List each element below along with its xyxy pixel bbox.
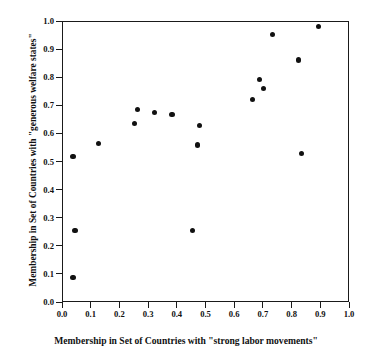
x-axis-tick-label: 0.8	[278, 309, 306, 319]
data-point	[257, 77, 262, 82]
y-axis-tick-label: 0.3	[32, 213, 54, 223]
x-axis-tick	[176, 302, 177, 308]
y-axis-tick-label: 0.2	[32, 241, 54, 251]
x-axis-tick	[262, 302, 263, 308]
y-axis-tick-label: 0.9	[32, 44, 54, 54]
x-axis-tick-label: 0.6	[220, 309, 248, 319]
y-axis-tick-label: 0.0	[32, 297, 54, 307]
x-axis-title: Membership in Set of Countries with "str…	[0, 335, 372, 346]
data-point	[152, 110, 157, 115]
data-point	[169, 112, 174, 117]
y-axis-tick	[56, 273, 62, 274]
data-point	[135, 107, 140, 112]
x-axis-tick-label: 0.7	[249, 309, 277, 319]
y-axis-tick-label: 0.5	[32, 157, 54, 167]
y-axis-tick	[56, 189, 62, 190]
y-axis-tick-label: 0.7	[32, 100, 54, 110]
data-point	[70, 275, 75, 280]
data-point	[195, 142, 200, 147]
x-axis-tick-label: 0.1	[77, 309, 105, 319]
data-point	[96, 141, 101, 146]
data-point	[316, 24, 321, 29]
y-axis-tick	[56, 133, 62, 134]
x-axis-tick	[148, 302, 149, 308]
data-point	[261, 86, 266, 91]
y-axis-tick	[56, 217, 62, 218]
x-axis-tick	[349, 302, 350, 308]
y-axis-tick-label: 0.1	[32, 269, 54, 279]
x-axis-tick-label: 0.9	[306, 309, 334, 319]
y-axis-tick-label: 0.8	[32, 72, 54, 82]
x-axis-tick-label: 0.5	[192, 309, 220, 319]
data-point	[270, 32, 275, 37]
y-axis-tick-label: 0.4	[32, 185, 54, 195]
y-axis-tick	[56, 105, 62, 106]
data-point	[296, 57, 301, 62]
x-axis-tick	[234, 302, 235, 308]
data-points-layer	[63, 22, 348, 301]
data-point	[299, 151, 304, 156]
scatter-plot-figure: Membership in Set of Countries with "gen…	[0, 0, 372, 359]
x-axis-tick	[62, 302, 63, 308]
y-axis-tick-label: 0.6	[32, 128, 54, 138]
x-axis-tick-label: 0.4	[163, 309, 191, 319]
data-point	[72, 228, 77, 233]
data-point	[132, 121, 137, 126]
y-axis-tick	[56, 245, 62, 246]
y-axis-tick	[56, 21, 62, 22]
y-axis-tick	[56, 49, 62, 50]
x-axis-tick-label: 0.2	[105, 309, 133, 319]
x-axis-tick	[320, 302, 321, 308]
x-axis-tick-label: 1.0	[335, 309, 363, 319]
x-axis-tick	[90, 302, 91, 308]
data-point	[70, 154, 75, 159]
chart-title	[0, 0, 372, 3]
data-point	[190, 228, 195, 233]
x-axis-tick	[205, 302, 206, 308]
y-axis-tick-label: 1.0	[32, 16, 54, 26]
x-axis-tick	[291, 302, 292, 308]
x-axis-tick-label: 0.0	[48, 309, 76, 319]
x-axis-tick	[119, 302, 120, 308]
data-point	[250, 97, 255, 102]
x-axis-tick-label: 0.3	[134, 309, 162, 319]
y-axis-tick	[56, 77, 62, 78]
data-point	[197, 123, 202, 128]
plot-area	[62, 21, 349, 302]
y-axis-tick	[56, 161, 62, 162]
